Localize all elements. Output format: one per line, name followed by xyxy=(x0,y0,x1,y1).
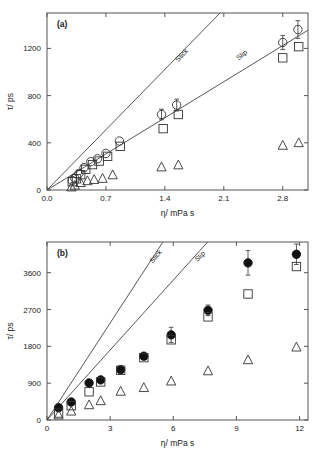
y-tick-label: 0 xyxy=(37,416,42,425)
series-filled-circle xyxy=(54,244,300,412)
data-point xyxy=(85,379,93,387)
data-point xyxy=(159,124,167,132)
data-point xyxy=(98,173,107,182)
y-axis-title: τ/ ps xyxy=(5,322,15,339)
figure-container: 0.00.71.42.12.804008001200StickSlip(a)η/… xyxy=(0,0,320,460)
x-tick-label: 0.7 xyxy=(100,194,112,203)
data-point xyxy=(67,406,76,415)
data-point xyxy=(295,42,303,50)
data-point xyxy=(278,140,287,149)
x-axis-title: η/ mPa s xyxy=(161,438,195,448)
y-tick-label: 900 xyxy=(28,379,42,388)
reference-line-stick xyxy=(47,13,220,190)
y-tick-label: 1800 xyxy=(23,342,41,351)
reference-lines xyxy=(47,242,208,420)
data-point xyxy=(203,366,212,375)
y-tick-label: 2700 xyxy=(23,306,41,315)
reference-line-stick xyxy=(47,242,163,420)
y-tick-label: 400 xyxy=(28,139,42,148)
y-tick-label: 800 xyxy=(28,92,42,101)
data-point xyxy=(96,396,105,405)
x-tick-label: 1.4 xyxy=(159,194,171,203)
data-point xyxy=(174,160,183,169)
line-label-stick: Stick xyxy=(174,47,190,63)
panel-a-plot: 0.00.71.42.12.804008001200StickSlip(a)η/… xyxy=(0,0,320,228)
panel-a: 0.00.71.42.12.804008001200StickSlip(a)η/… xyxy=(0,0,320,228)
axis-ticks xyxy=(47,242,308,420)
x-axis-title: η/ mPa s xyxy=(161,208,195,218)
x-tick-label: 3 xyxy=(108,424,113,433)
y-tick-label: 3600 xyxy=(23,269,41,278)
y-axis-title: τ/ ps xyxy=(5,93,15,110)
y-tick-label: 1200 xyxy=(23,44,41,53)
data-point xyxy=(279,54,287,62)
data-point xyxy=(243,355,252,364)
x-tick-label: 6 xyxy=(171,424,176,433)
line-label-slip: Slip xyxy=(235,48,249,62)
series-open-triangle xyxy=(67,138,304,191)
data-point xyxy=(292,250,300,258)
data-point xyxy=(85,388,93,396)
data-point xyxy=(84,400,93,409)
data-point xyxy=(67,398,75,406)
data-point xyxy=(96,376,104,384)
line-label-stick: Stick xyxy=(148,248,163,265)
plot-frame xyxy=(47,242,308,420)
data-point xyxy=(167,376,176,385)
data-point xyxy=(108,170,117,179)
data-point xyxy=(244,290,252,298)
panel-tag: (b) xyxy=(57,248,68,258)
panel-b: 0369120900180027003600StickSlip(b)η/ mPa… xyxy=(0,228,320,460)
data-point xyxy=(204,306,212,314)
reference-line-slip xyxy=(47,242,208,420)
panel-tag: (a) xyxy=(57,19,68,29)
data-point xyxy=(116,365,124,373)
series-open-square xyxy=(68,42,303,186)
series-open-square xyxy=(54,262,300,417)
x-tick-label: 0 xyxy=(45,424,50,433)
data-point xyxy=(157,162,166,171)
panel-b-plot: 0369120900180027003600StickSlip(b)η/ mPa… xyxy=(0,228,320,460)
data-point xyxy=(294,138,303,147)
y-tick-label: 0 xyxy=(37,186,42,195)
x-tick-label: 2.1 xyxy=(218,194,230,203)
x-tick-label: 2.8 xyxy=(277,194,289,203)
data-point xyxy=(292,342,301,351)
x-tick-label: 12 xyxy=(295,424,304,433)
x-tick-label: 0.0 xyxy=(41,194,53,203)
x-tick-label: 9 xyxy=(234,424,239,433)
line-label-slip: Slip xyxy=(193,250,207,264)
data-point xyxy=(244,259,252,267)
data-point xyxy=(167,331,175,339)
data-point xyxy=(116,386,125,395)
data-point xyxy=(139,383,148,392)
